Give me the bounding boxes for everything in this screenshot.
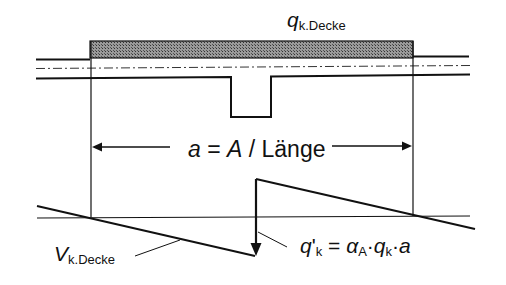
slab-centerline [36, 66, 470, 69]
shear-force-line-right [256, 179, 475, 229]
point-load-arrowhead-icon [251, 243, 262, 256]
dimension-label: a = A / Länge [188, 136, 326, 162]
arrowhead-right-icon [402, 142, 412, 151]
shear-force-line-left [37, 206, 255, 256]
point-load-label-leader [258, 232, 287, 247]
distributed-load-block [90, 41, 413, 58]
diagram-canvas: a = A / Länge qk.Decke Vk.Decke q'k = αA… [0, 0, 506, 285]
shear-label: Vk.Decke [54, 242, 115, 267]
point-load-label: q'k = αA·qk·a [300, 234, 411, 259]
shear-baseline [37, 216, 470, 218]
shear-label-leader [135, 240, 180, 256]
slab-bottom-with-beam [36, 75, 470, 118]
arrowhead-left-icon [92, 143, 102, 152]
load-label: qk.Decke [287, 8, 346, 33]
